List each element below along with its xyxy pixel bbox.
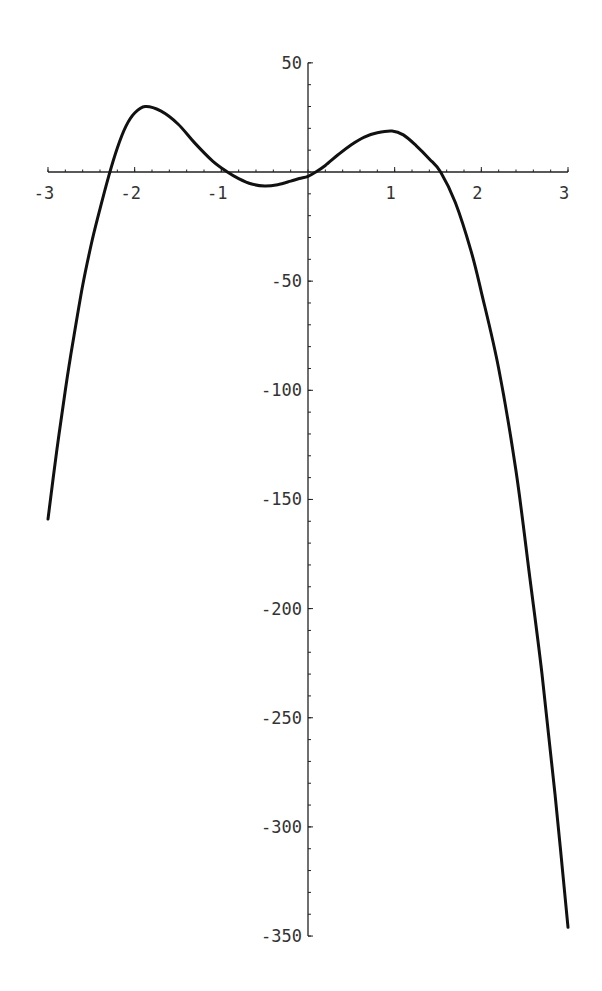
y-tick-label: -50 xyxy=(271,271,302,291)
y-tick-label: 50 xyxy=(282,53,302,73)
y-tick-label: -350 xyxy=(261,926,302,946)
x-tick-label: -1 xyxy=(207,183,227,203)
x-tick-label: -3 xyxy=(34,183,54,203)
x-tick-label: -2 xyxy=(120,183,140,203)
x-tick-label: 3 xyxy=(559,183,569,203)
x-tick-label: 2 xyxy=(472,183,482,203)
y-tick-label: -150 xyxy=(261,489,302,509)
x-tick-labels: -3-2-1123 xyxy=(34,183,569,203)
function-plot: -3-2-1123 50-50-100-150-200-250-300-350 xyxy=(0,0,602,991)
y-tick-label: -100 xyxy=(261,380,302,400)
x-tick-label: 1 xyxy=(386,183,396,203)
y-tick-label: -200 xyxy=(261,599,302,619)
y-tick-label: -300 xyxy=(261,817,302,837)
y-tick-label: -250 xyxy=(261,708,302,728)
